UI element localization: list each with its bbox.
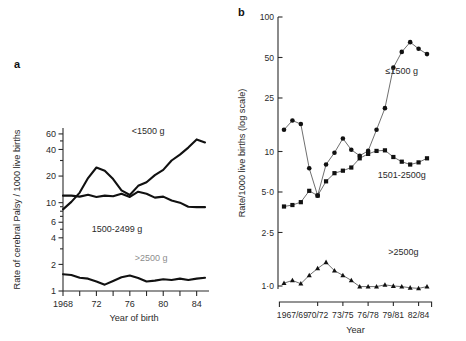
panel-b-marker — [307, 189, 311, 193]
panel-b-marker — [382, 282, 387, 287]
panel-a-y-tick-label: 4 — [51, 233, 56, 243]
panel-b-marker — [383, 106, 388, 111]
panel-b-plot: 1·02·55·01025501001967/6970/7273/7576/78… — [233, 0, 466, 341]
panel-b-y-axis-title: Rate/1000 live births (log scale) — [237, 89, 247, 218]
panel-a-x-axis-title: Year of birth — [109, 313, 158, 323]
panel-b-series-label-2: >2500g — [388, 247, 418, 257]
panel-b-marker — [416, 160, 420, 164]
panel-a-y-tick-label: 6 — [51, 217, 56, 227]
panel-b-series-label-0: ≤1500 g — [386, 66, 418, 76]
panel-a-series-0 — [63, 139, 205, 209]
panel-b-marker — [324, 179, 328, 183]
panel-b-marker — [358, 156, 362, 160]
panel-b-y-tick-label: 100 — [260, 12, 275, 22]
panel-a-series-label-2: >2500 g — [135, 253, 168, 263]
panel-b-marker — [399, 50, 404, 55]
panel-a-series-label-0: <1500 g — [132, 126, 165, 136]
panel-b-x-tick-label: 79/81 — [383, 310, 405, 320]
panel-b-marker — [383, 148, 387, 152]
panel-b-marker — [366, 152, 370, 156]
panel-b-marker — [290, 278, 295, 283]
panel-b-marker — [307, 273, 312, 278]
panel-b-marker — [316, 194, 320, 198]
panel-a: a 124610204060196872768084Year of birthR… — [0, 0, 233, 341]
panel-a-y-tick-label: 20 — [46, 171, 56, 181]
panel-b-y-tick-label: 25 — [264, 93, 274, 103]
panel-a-plot: 124610204060196872768084Year of birthRat… — [0, 0, 233, 341]
panel-b-y-tick-label: 5·0 — [262, 187, 275, 197]
panel-b-marker — [299, 200, 303, 204]
panel-b-marker — [349, 165, 353, 169]
panel-b-marker — [374, 149, 378, 153]
panel-b-marker — [408, 162, 412, 166]
panel-b-marker — [349, 278, 354, 283]
panel-a-y-tick-label: 10 — [46, 198, 56, 208]
panel-b-marker — [425, 284, 430, 289]
panel-b-marker — [374, 127, 379, 132]
panel-a-series-label-1: 1500-2499 g — [92, 224, 143, 234]
panel-b-marker — [332, 171, 336, 175]
panel-b-marker — [416, 47, 421, 52]
panel-b-marker — [290, 118, 295, 123]
panel-b-series-line-2 — [284, 262, 427, 288]
panel-b-marker — [332, 150, 337, 155]
panel-a-y-axis-title: Rate of cerebral Palsy / 1000 live birth… — [12, 129, 22, 289]
panel-b: b 1·02·55·01025501001967/6970/7273/7576/… — [233, 0, 466, 341]
panel-a-y-tick-label: 1 — [51, 286, 56, 296]
panel-b-marker — [315, 266, 320, 271]
panel-b-marker — [408, 40, 413, 45]
panel-b-x-axis-title: Year — [346, 325, 365, 335]
panel-b-x-tick-label: 73/75 — [332, 310, 354, 320]
panel-a-series-1 — [63, 192, 205, 207]
panel-a-x-tick-label: 80 — [158, 299, 168, 309]
panel-b-series-label-1: 1501-2500g — [378, 170, 426, 180]
panel-b-marker — [425, 156, 429, 160]
panel-b-x-tick-label: 76/78 — [357, 310, 379, 320]
panel-a-x-tick-label: 84 — [192, 299, 202, 309]
panel-a-series-2 — [63, 274, 205, 284]
panel-b-x-tick-label: 82/84 — [408, 310, 430, 320]
panel-a-x-tick-label: 76 — [125, 299, 135, 309]
panel-a-y-tick-label: 60 — [46, 129, 56, 139]
panel-b-marker — [425, 52, 430, 57]
figure-container: a 124610204060196872768084Year of birthR… — [0, 0, 466, 341]
panel-b-marker — [340, 273, 345, 278]
panel-b-marker — [391, 155, 395, 159]
panel-b-marker — [324, 162, 329, 167]
panel-b-y-tick-label: 2·5 — [262, 228, 275, 238]
panel-b-x-tick-label: 70/72 — [307, 310, 329, 320]
panel-b-marker — [307, 166, 312, 171]
panel-a-y-tick-label: 40 — [46, 145, 56, 155]
panel-b-x-tick-label: 1967/69 — [277, 310, 308, 320]
panel-b-y-tick-label: 1·0 — [262, 281, 275, 291]
panel-b-marker — [282, 127, 287, 132]
panel-a-x-tick-label: 1968 — [53, 299, 73, 309]
panel-a-y-tick-label: 2 — [51, 260, 56, 270]
panel-b-marker — [349, 147, 354, 152]
panel-b-x-axis — [279, 302, 431, 307]
panel-b-marker — [299, 122, 304, 127]
panel-b-y-tick-label: 10 — [264, 147, 274, 157]
panel-b-marker — [341, 169, 345, 173]
panel-a-x-tick-label: 72 — [91, 299, 101, 309]
panel-b-marker — [324, 260, 329, 265]
panel-b-series-markers-2 — [282, 260, 430, 291]
panel-b-marker — [400, 160, 404, 164]
panel-b-y-tick-label: 50 — [264, 53, 274, 63]
panel-b-marker — [341, 136, 346, 141]
panel-b-marker — [282, 204, 286, 208]
panel-b-marker — [290, 203, 294, 207]
